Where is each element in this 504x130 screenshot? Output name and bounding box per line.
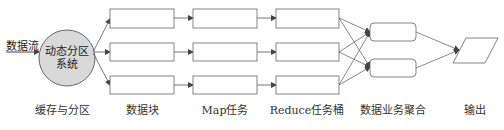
- data-block-1: [110, 9, 174, 28]
- partition-node-line1: 动态分区: [45, 45, 89, 58]
- aggregation-node-2: [370, 59, 416, 77]
- map-task-3: [193, 76, 257, 94]
- map-task-1: [193, 9, 257, 28]
- output-node: [453, 38, 498, 63]
- partition-node-line2: 系统: [45, 58, 89, 71]
- stage-label-data-blocks: 数据块: [126, 101, 159, 117]
- reduce-bucket-2: [276, 43, 339, 61]
- map-task-2: [193, 43, 257, 61]
- reduce-bucket-3: [276, 76, 339, 94]
- input-label: 数据流: [6, 37, 39, 53]
- stage-label-reduce-buckets: Reduce任务桶: [270, 101, 345, 117]
- reduce-bucket-1: [276, 9, 339, 28]
- stage-label-aggregation: 数据业务聚合: [360, 101, 426, 117]
- stage-label-cache-partition: 缓存与分区: [35, 101, 90, 117]
- data-block-2: [110, 43, 174, 61]
- aggregation-node-1: [370, 23, 416, 41]
- stage-label-map-tasks: Map任务: [202, 101, 249, 117]
- edge-circle-block-1: [93, 19, 110, 52]
- edge-circle-block-3: [93, 53, 110, 85]
- partition-node-label: 动态分区 系统: [45, 45, 89, 71]
- data-block-3: [110, 76, 174, 94]
- edge-agg2-output: [416, 50, 459, 68]
- edge-reduce3-agg2: [339, 67, 370, 85]
- edge-reduce3-agg1: [339, 32, 370, 85]
- edge-reduce2-agg1: [339, 32, 370, 52]
- stage-label-output: 输出: [464, 101, 486, 117]
- edge-agg1-output: [416, 32, 459, 50]
